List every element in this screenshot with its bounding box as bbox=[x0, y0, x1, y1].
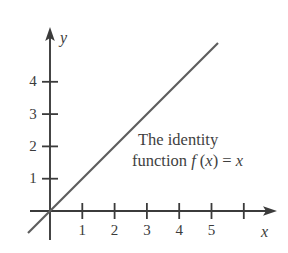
y-tick-label-3: 3 bbox=[25, 107, 41, 122]
y-tick-label-1: 1 bbox=[25, 171, 41, 186]
annotation-close-paren: ) bbox=[213, 151, 223, 170]
annotation-function-word: function bbox=[132, 151, 191, 170]
plot-canvas bbox=[0, 0, 288, 253]
annotation-x-argument: x bbox=[205, 151, 212, 170]
annotation-open-paren: ( bbox=[196, 151, 206, 170]
y-tick-label-4: 4 bbox=[25, 74, 41, 89]
annotation-line-2: function f (x) = x bbox=[132, 150, 278, 171]
function-annotation: The identity function f (x) = x bbox=[138, 129, 278, 172]
x-tick-label-3: 3 bbox=[139, 223, 155, 238]
x-tick-label-2: 2 bbox=[107, 223, 123, 238]
annotation-x-value: x bbox=[236, 151, 243, 170]
y-axis-label: y bbox=[60, 30, 67, 46]
annotation-line-1: The identity bbox=[138, 130, 218, 149]
x-tick-label-4: 4 bbox=[171, 223, 187, 238]
identity-function-figure: y x 1 2 3 4 5 1 2 3 4 The identity funct… bbox=[0, 0, 288, 253]
x-tick-label-1: 1 bbox=[74, 223, 90, 238]
x-axis-label: x bbox=[261, 224, 268, 240]
annotation-equals-sign: = bbox=[222, 151, 235, 170]
x-tick-label-5: 5 bbox=[204, 223, 220, 238]
y-tick-label-2: 2 bbox=[25, 139, 41, 154]
